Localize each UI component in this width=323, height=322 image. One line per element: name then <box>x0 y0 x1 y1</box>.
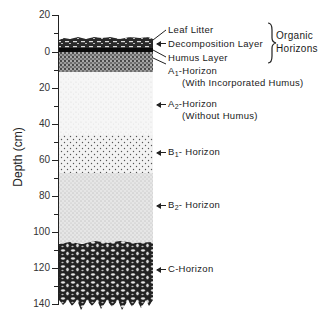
label-humus-layer: Humus Layer <box>168 52 228 63</box>
arrow-icon <box>157 104 166 105</box>
label-leaf-litter: Leaf Litter <box>168 24 214 35</box>
label-c-horizon: C-Horizon <box>168 263 213 274</box>
label-b1-horizon: B1- Horizon <box>168 146 220 160</box>
label-decomposition-layer: Decomposition Layer <box>168 38 263 49</box>
arrow-icon <box>157 43 166 44</box>
arrow-icon <box>157 269 166 270</box>
label-horizons: Horizons <box>276 43 318 54</box>
label-organic: Organic <box>276 30 313 41</box>
arrow-icon <box>157 205 166 206</box>
label-b2-horizon: B2- Horizon <box>168 199 220 213</box>
label-a2-note: (Without Humus) <box>182 110 258 121</box>
arrow-icon <box>157 152 166 153</box>
label-a1-note: (With Incorporated Humus) <box>182 77 304 88</box>
soil-profile-column <box>0 0 323 322</box>
